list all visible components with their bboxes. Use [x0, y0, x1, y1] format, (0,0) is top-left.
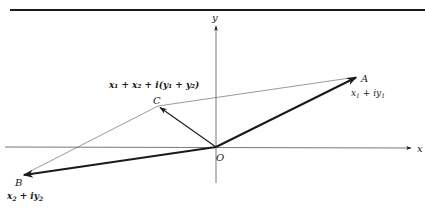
vector-OB — [24, 147, 216, 175]
vector-OA — [216, 78, 356, 148]
vector-OC — [160, 108, 216, 148]
point-B-expression: x2 + iy2 — [6, 191, 43, 202]
point-B-label: B — [14, 177, 22, 188]
point-A-label: A — [360, 73, 368, 84]
point-C-label: C — [153, 95, 161, 106]
point-A-expression: x1 + iy1 — [351, 88, 385, 99]
y-axis-label: y — [211, 12, 218, 23]
point-C-expression: x₁ + x₂ + i(y₁ + y₂) — [108, 80, 199, 90]
x-axis-label: x — [417, 143, 423, 154]
origin-label: O — [216, 152, 224, 163]
complex-addition-diagram: y x O A x1 + iy1 B x2 + iy2 C x₁ + x₂ + … — [0, 0, 425, 210]
